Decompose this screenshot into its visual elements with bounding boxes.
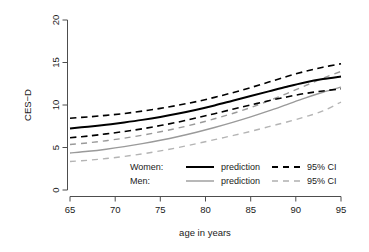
y-tick-label: 15: [50, 57, 61, 68]
x-axis-ticks: [70, 197, 341, 202]
y-axis-title: CES−D: [22, 89, 33, 121]
chart-figure: 20 15 10 5 0 CES−D 65 70 75 80 85 90 95: [0, 0, 369, 252]
legend-label-men-prediction: prediction: [221, 176, 260, 186]
y-tick-label: 10: [50, 100, 61, 111]
y-axis-ticks: [63, 20, 68, 190]
y-tick-label: 5: [50, 145, 61, 150]
x-tick-label: 80: [200, 204, 211, 215]
x-tick-label: 70: [110, 204, 121, 215]
x-tick-label: 85: [245, 204, 256, 215]
legend-label-women-prediction: prediction: [221, 162, 260, 172]
y-axis-tick-labels: 20 15 10 5 0: [50, 15, 61, 193]
x-axis-title: age in years: [179, 227, 231, 238]
legend-label-women-ci: 95% CI: [307, 162, 337, 172]
series-line: [70, 87, 341, 153]
legend-label-men-ci: 95% CI: [307, 176, 337, 186]
series-line: [70, 64, 341, 118]
x-tick-label: 65: [65, 204, 76, 215]
x-tick-label: 90: [291, 204, 302, 215]
x-tick-label: 75: [155, 204, 166, 215]
chart-legend: Women: prediction 95% CI Men: prediction…: [130, 162, 337, 186]
data-series-layer: [70, 64, 341, 162]
y-tick-label: 20: [50, 15, 61, 26]
series-line: [70, 102, 341, 162]
legend-group-label-men: Men:: [130, 176, 150, 186]
chart-canvas: 20 15 10 5 0 CES−D 65 70 75 80 85 90 95: [0, 0, 369, 252]
legend-group-label-women: Women:: [130, 162, 163, 172]
x-axis-tick-labels: 65 70 75 80 85 90 95: [65, 204, 347, 215]
y-tick-label: 0: [50, 187, 61, 192]
x-tick-label: 95: [336, 204, 347, 215]
